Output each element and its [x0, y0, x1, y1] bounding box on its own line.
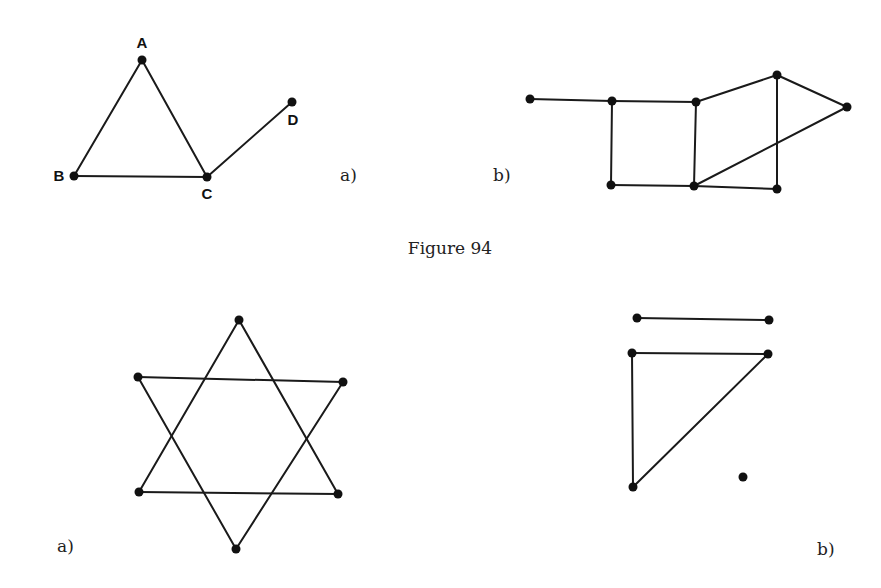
- subfigure-label: b): [493, 165, 511, 185]
- graph-edge: [139, 492, 338, 494]
- graph-vertex: [232, 545, 241, 554]
- graph-edge: [611, 185, 694, 186]
- graph-edge: [694, 186, 777, 189]
- graph-vertex: [135, 488, 144, 497]
- graph-vertex: [773, 71, 782, 80]
- graph-edge: [633, 354, 768, 487]
- graph-vertex: [608, 97, 617, 106]
- vertex-label: C: [202, 185, 213, 202]
- figure-94-canvas: ABCDa)b)a)b) Figure 94: [0, 0, 881, 588]
- edges-layer: [74, 60, 847, 549]
- nodes-layer: [70, 56, 852, 554]
- subfigure-label: a): [340, 165, 357, 185]
- vertex-label: A: [137, 34, 148, 51]
- graph-edge: [611, 101, 612, 185]
- vertex-label: B: [54, 167, 65, 184]
- figure-caption: Figure 94: [408, 238, 492, 258]
- graph-edge: [612, 101, 696, 102]
- graph-vertex: [764, 350, 773, 359]
- graph-edge: [74, 176, 207, 177]
- graph-vertex: [203, 173, 212, 182]
- graph-vertex: [334, 490, 343, 499]
- subfigure-label: b): [817, 539, 835, 559]
- graph-edge: [632, 353, 633, 487]
- graph-edge: [142, 60, 207, 177]
- graph-vertex: [526, 95, 535, 104]
- graph-vertex: [739, 473, 748, 482]
- graph-vertex: [339, 378, 348, 387]
- graph-vertex: [235, 316, 244, 325]
- graph-edge: [74, 60, 142, 176]
- subfigure-label: a): [57, 536, 74, 556]
- graph-vertex: [70, 172, 79, 181]
- graph-vertex: [138, 56, 147, 65]
- graph-edge: [696, 75, 777, 102]
- graph-vertex: [288, 98, 297, 107]
- graph-edge: [530, 99, 612, 101]
- vertex-label: D: [288, 111, 299, 128]
- graph-vertex: [843, 103, 852, 112]
- graph-edge: [694, 102, 696, 186]
- graph-vertex: [765, 316, 774, 325]
- graph-edge: [637, 318, 769, 320]
- graph-vertex: [690, 182, 699, 191]
- graph-edge: [207, 102, 292, 177]
- graph-edge: [138, 377, 343, 382]
- graph-vertex: [628, 349, 637, 358]
- graph-vertex: [633, 314, 642, 323]
- graph-edge: [138, 377, 236, 549]
- graph-vertex: [692, 98, 701, 107]
- graph-vertex: [773, 185, 782, 194]
- graph-vertex: [607, 181, 616, 190]
- graph-vertex: [134, 373, 143, 382]
- graph-edge: [777, 75, 847, 107]
- graph-edge: [694, 107, 847, 186]
- graph-edge: [632, 353, 768, 354]
- graph-vertex: [629, 483, 638, 492]
